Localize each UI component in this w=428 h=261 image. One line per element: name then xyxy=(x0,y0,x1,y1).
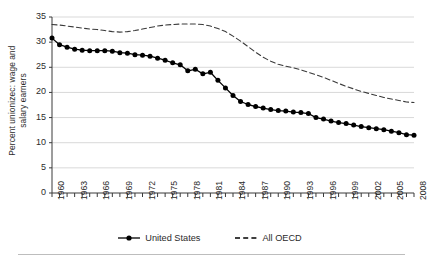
data-point xyxy=(374,126,379,131)
data-point xyxy=(306,111,311,116)
data-point xyxy=(155,56,160,61)
x-axis-tick-label: 1963 xyxy=(79,181,89,200)
data-point xyxy=(65,45,70,50)
x-axis-tick-label: 1999 xyxy=(350,181,360,200)
y-axis-tick-label: 20 xyxy=(24,86,46,96)
data-point xyxy=(246,102,251,107)
data-point xyxy=(412,133,417,138)
data-point xyxy=(110,49,115,54)
chart-legend: United StatesAll OECD xyxy=(0,233,419,243)
data-point xyxy=(80,48,85,53)
data-point xyxy=(185,68,190,73)
y-axis-tick-label: 0 xyxy=(24,187,46,197)
data-point xyxy=(276,108,281,113)
data-point xyxy=(95,48,100,53)
x-axis-tick-label: 1987 xyxy=(260,181,270,200)
data-point xyxy=(193,67,198,72)
data-point xyxy=(366,125,371,130)
data-point xyxy=(163,58,168,63)
data-point xyxy=(396,130,401,135)
y-axis-tick-label: 25 xyxy=(24,61,46,71)
data-point xyxy=(381,127,386,132)
y-axis-tick-label: 30 xyxy=(24,36,46,46)
data-point xyxy=(208,70,213,75)
data-point xyxy=(50,36,55,41)
x-axis-tick-label: 1966 xyxy=(101,181,111,200)
x-axis-tick-label: 1972 xyxy=(147,181,157,200)
data-point xyxy=(125,51,130,56)
x-axis-tick-label: 1960 xyxy=(56,181,66,200)
x-axis-tick-label: 1990 xyxy=(282,181,292,200)
y-axis-tick-label: 10 xyxy=(24,137,46,147)
data-point xyxy=(291,110,296,115)
y-axis-tick-label: 15 xyxy=(24,112,46,122)
x-axis-tick-label: 1975 xyxy=(169,181,179,200)
legend-label: All OECD xyxy=(262,233,301,243)
x-axis-tick-label: 1984 xyxy=(237,181,247,200)
series-line-all-oecd xyxy=(52,24,414,102)
data-point xyxy=(231,93,236,98)
data-point xyxy=(117,50,122,55)
y-axis-tick-label: 5 xyxy=(24,162,46,172)
legend-item-united-states[interactable]: United States xyxy=(117,233,200,243)
data-point xyxy=(223,85,228,90)
data-point xyxy=(200,71,205,76)
data-point xyxy=(283,109,288,114)
data-point xyxy=(238,99,243,104)
data-point xyxy=(336,120,341,125)
data-point xyxy=(170,60,175,65)
data-point xyxy=(102,48,107,53)
data-point xyxy=(253,104,258,109)
data-point xyxy=(321,117,326,122)
data-point xyxy=(268,107,273,112)
data-point xyxy=(148,54,153,59)
data-point xyxy=(261,106,266,111)
x-axis-tick-label: 1993 xyxy=(305,181,315,200)
legend-solid-line-icon xyxy=(117,233,141,243)
x-axis-tick-label: 2005 xyxy=(395,181,405,200)
data-point xyxy=(215,78,220,83)
data-point xyxy=(298,110,303,115)
data-point xyxy=(329,119,334,124)
legend-label: United States xyxy=(145,233,200,243)
x-axis-tick-label: 2002 xyxy=(373,181,383,200)
data-point xyxy=(72,47,77,52)
legend-item-all-oecd[interactable]: All OECD xyxy=(234,233,301,243)
data-point xyxy=(359,124,364,129)
x-axis-tick-label: 1978 xyxy=(192,181,202,200)
y-axis-tick-label: 35 xyxy=(24,11,46,21)
data-point xyxy=(313,115,318,120)
data-point xyxy=(344,121,349,126)
data-point xyxy=(178,62,183,67)
data-point xyxy=(351,123,356,128)
legend-dashed-line-icon xyxy=(234,233,258,243)
x-axis-tick-label: 2008 xyxy=(418,181,428,200)
x-axis-tick-label: 1996 xyxy=(328,181,338,200)
data-point xyxy=(389,129,394,134)
data-point xyxy=(132,52,137,57)
data-point xyxy=(140,53,145,58)
data-point xyxy=(57,42,62,47)
data-point xyxy=(404,132,409,137)
bottom-divider xyxy=(18,254,405,255)
data-point xyxy=(87,48,92,53)
x-axis-tick-label: 1981 xyxy=(214,181,224,200)
x-axis-tick-label: 1969 xyxy=(124,181,134,200)
